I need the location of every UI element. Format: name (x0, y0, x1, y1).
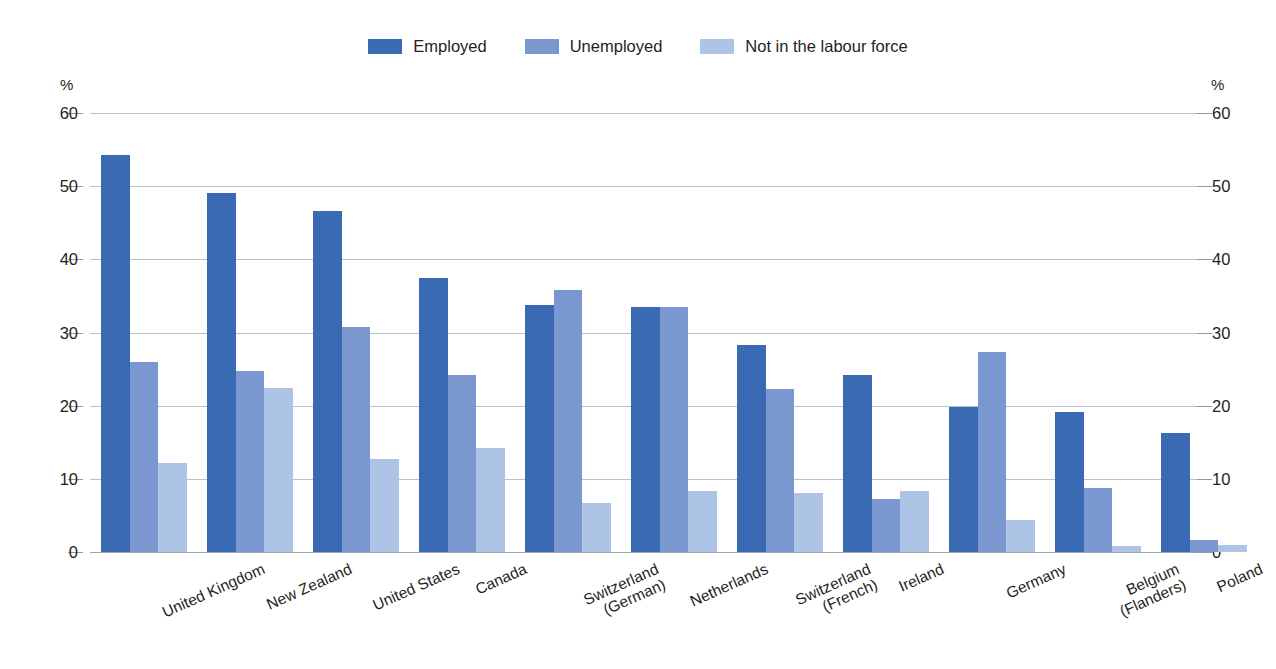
bar[interactable] (794, 493, 823, 552)
bar[interactable] (448, 375, 477, 552)
bar[interactable] (264, 388, 293, 552)
bar-group (101, 113, 187, 552)
x-axis-category-label: Netherlands (687, 560, 770, 610)
bar[interactable] (130, 362, 159, 552)
x-axis-category-label: Switzerland (German) (581, 560, 668, 624)
plot-area: 00101020203030404050506060 (90, 113, 1200, 552)
legend-item[interactable]: Employed (368, 38, 486, 55)
legend-swatch-icon (368, 39, 402, 54)
bar-group (1161, 113, 1247, 552)
bar-group (737, 113, 823, 552)
bar[interactable] (236, 371, 265, 552)
bar[interactable] (1161, 433, 1190, 552)
bar-group (631, 113, 717, 552)
bar[interactable] (737, 345, 766, 552)
legend-swatch-icon (700, 39, 734, 54)
x-axis-category-label: United States (370, 560, 462, 614)
y-axis-tick-label: 20 (60, 398, 78, 415)
bar-chart: EmployedUnemployedNot in the labour forc… (0, 0, 1276, 669)
bar[interactable] (370, 459, 399, 552)
legend-label: Employed (413, 38, 486, 55)
bar-group (313, 113, 399, 552)
bar-group (949, 113, 1035, 552)
bar[interactable] (554, 290, 583, 552)
bar[interactable] (476, 448, 505, 552)
bar[interactable] (582, 503, 611, 552)
x-axis-category-label: Belgium (Flanders) (1110, 560, 1189, 620)
bar-group (1055, 113, 1141, 552)
bar-group (843, 113, 929, 552)
x-axis-category-label: Poland (1214, 560, 1265, 595)
bar-group (525, 113, 611, 552)
bar[interactable] (872, 499, 901, 552)
bar[interactable] (342, 327, 371, 552)
y-axis-unit-left: % (60, 76, 73, 93)
x-axis-category-label: United Kingdom (159, 560, 267, 621)
y-axis-tick-label: 50 (60, 178, 78, 195)
bar[interactable] (949, 407, 978, 552)
x-axis-category-label: Switzerland (French) (793, 560, 880, 624)
y-axis-unit-right: % (1211, 76, 1224, 93)
y-axis-tick-label: 40 (60, 251, 78, 268)
bar[interactable] (978, 352, 1007, 552)
x-axis-category-label: Ireland (896, 560, 946, 595)
legend-label: Unemployed (570, 38, 663, 55)
bar[interactable] (766, 389, 795, 552)
bar[interactable] (843, 375, 872, 552)
bar[interactable] (419, 278, 448, 552)
bar[interactable] (1190, 540, 1219, 552)
bar-groups (90, 113, 1200, 552)
x-axis-category-label: Germany (1003, 560, 1068, 602)
legend-item[interactable]: Unemployed (525, 38, 663, 55)
bar[interactable] (688, 491, 717, 552)
legend-item[interactable]: Not in the labour force (700, 38, 907, 55)
bar[interactable] (1006, 520, 1035, 552)
bar[interactable] (101, 155, 130, 552)
bar[interactable] (1218, 545, 1247, 552)
y-axis-tick-label: 30 (60, 325, 78, 342)
bar[interactable] (207, 193, 236, 552)
x-axis-category-label: New Zealand (264, 560, 354, 613)
bar[interactable] (313, 211, 342, 552)
x-axis-category-labels: United KingdomNew ZealandUnited StatesCa… (90, 552, 1200, 669)
legend-swatch-icon (525, 39, 559, 54)
bar-group (419, 113, 505, 552)
bar-group (207, 113, 293, 552)
y-axis-tick-label: 0 (69, 544, 78, 561)
bar[interactable] (158, 463, 187, 552)
bar[interactable] (631, 307, 660, 552)
y-axis-tick-label: 10 (60, 471, 78, 488)
x-axis-category-label: Canada (472, 560, 529, 598)
legend-label: Not in the labour force (745, 38, 907, 55)
bar[interactable] (1055, 412, 1084, 552)
chart-legend: EmployedUnemployedNot in the labour forc… (0, 38, 1276, 55)
bar[interactable] (660, 307, 689, 552)
bar[interactable] (900, 491, 929, 552)
y-axis-tick-label: 60 (60, 105, 78, 122)
bar[interactable] (525, 305, 554, 552)
bar[interactable] (1084, 488, 1113, 552)
